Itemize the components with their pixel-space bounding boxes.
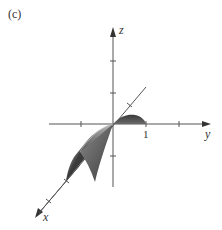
surface-plot: (c) z y 1 x (0, 0, 222, 230)
z-axis-label: z (118, 23, 124, 37)
z-axis (110, 27, 116, 187)
z-axis-arrow-icon (110, 27, 116, 37)
panel-label: (c) (8, 7, 21, 21)
x-axis-label: x (42, 210, 49, 224)
y-axis-label: y (204, 127, 211, 141)
y-tick-label-1: 1 (143, 128, 149, 140)
